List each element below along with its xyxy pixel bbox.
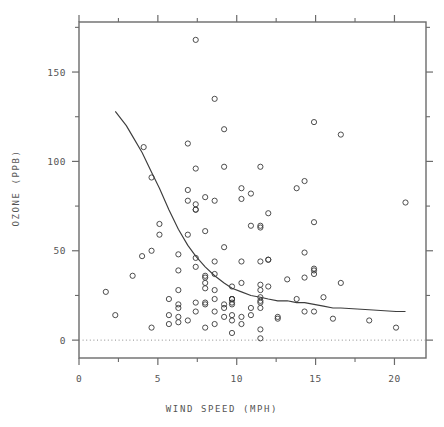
data-point (239, 196, 244, 201)
data-point (222, 245, 227, 250)
data-point (130, 273, 135, 278)
data-point (193, 207, 198, 212)
data-point (113, 313, 118, 318)
data-point (321, 295, 326, 300)
scatter-plot-figure: 05101520050100150 WIND SPEED (MPH) OZONE… (0, 0, 444, 427)
data-point (302, 250, 307, 255)
data-point (212, 321, 217, 326)
data-point (239, 280, 244, 285)
data-point (103, 289, 108, 294)
data-point (139, 254, 144, 259)
data-point (166, 321, 171, 326)
data-point (166, 296, 171, 301)
data-point (266, 284, 271, 289)
x-tick-label: 10 (231, 373, 243, 384)
y-tick-label: 100 (47, 156, 66, 167)
data-point (222, 164, 227, 169)
data-point (239, 314, 244, 319)
data-point (176, 268, 181, 273)
data-point (185, 318, 190, 323)
data-point (258, 327, 263, 332)
data-point (294, 296, 299, 301)
data-point (212, 309, 217, 314)
data-point (203, 286, 208, 291)
data-point (229, 313, 234, 318)
data-point (212, 259, 217, 264)
data-point (239, 259, 244, 264)
data-point (222, 302, 227, 307)
data-point (258, 287, 263, 292)
data-point (258, 259, 263, 264)
x-axis-label: WIND SPEED (MPH) (0, 404, 444, 414)
data-point (149, 325, 154, 330)
series-ozone-vs-wind (103, 37, 408, 341)
data-point (176, 287, 181, 292)
y-tick-label: 50 (54, 245, 66, 256)
data-point (266, 211, 271, 216)
x-tick-label: 15 (309, 373, 321, 384)
data-point (176, 302, 181, 307)
data-point (248, 191, 253, 196)
data-point (193, 202, 198, 207)
y-axis-label: OZONE (PPB) (11, 128, 21, 248)
data-point (176, 252, 181, 257)
data-point (229, 296, 234, 301)
data-point (258, 164, 263, 169)
data-point (258, 282, 263, 287)
data-point (193, 37, 198, 42)
data-point (203, 280, 208, 285)
data-point (212, 96, 217, 101)
data-point (338, 132, 343, 137)
data-point (157, 232, 162, 237)
x-tick-label: 0 (76, 373, 82, 384)
data-point (258, 336, 263, 341)
x-tick-label: 20 (388, 373, 400, 384)
x-tick-label: 5 (155, 373, 161, 384)
data-point (393, 325, 398, 330)
data-point (338, 280, 343, 285)
data-point (185, 187, 190, 192)
plot-frame (79, 22, 426, 358)
data-point (222, 314, 227, 319)
y-tick-label: 150 (47, 67, 66, 78)
data-point (212, 287, 217, 292)
data-point (248, 305, 253, 310)
data-point (176, 320, 181, 325)
data-point (239, 186, 244, 191)
data-point (311, 309, 316, 314)
data-point (193, 309, 198, 314)
data-point (266, 257, 271, 262)
data-point (302, 275, 307, 280)
data-point (367, 318, 372, 323)
data-point (203, 325, 208, 330)
data-point (166, 313, 171, 318)
data-point (193, 264, 198, 269)
data-point (212, 198, 217, 203)
data-point (185, 232, 190, 237)
y-tick-label: 0 (60, 335, 66, 346)
data-point (302, 309, 307, 314)
data-point (193, 166, 198, 171)
data-point (149, 248, 154, 253)
data-point (203, 229, 208, 234)
data-point (141, 145, 146, 150)
data-point (193, 300, 198, 305)
data-point (203, 195, 208, 200)
data-point (330, 316, 335, 321)
data-point (403, 200, 408, 205)
data-point (157, 221, 162, 226)
data-point (248, 313, 253, 318)
data-point (222, 127, 227, 132)
data-point (248, 223, 253, 228)
data-point (229, 318, 234, 323)
data-point (302, 178, 307, 183)
data-point (212, 296, 217, 301)
data-point (285, 277, 290, 282)
plot-canvas: 05101520050100150 (0, 0, 444, 427)
data-point (258, 305, 263, 310)
data-point (229, 330, 234, 335)
data-point (311, 119, 316, 124)
data-point (176, 314, 181, 319)
data-point (185, 141, 190, 146)
data-point (185, 198, 190, 203)
